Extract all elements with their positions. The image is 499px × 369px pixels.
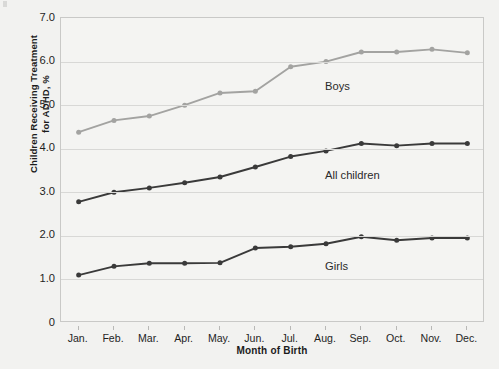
gridline xyxy=(61,105,483,106)
x-tick-mark xyxy=(148,326,149,330)
gridline xyxy=(61,192,483,193)
y-tick-label: 4.0 xyxy=(25,142,55,153)
gridline xyxy=(61,149,483,150)
x-tick-mark xyxy=(325,326,326,330)
data-point xyxy=(430,47,435,52)
x-axis-tick-labels: Jan.Feb.Mar.Apr.May.Jun.Jul.Aug.Sep.Oct.… xyxy=(60,326,484,344)
x-tick-mark xyxy=(219,326,220,330)
series-boys xyxy=(76,47,470,135)
y-tick-label: 5.0 xyxy=(25,99,55,110)
x-tick-mark xyxy=(396,326,397,330)
data-point xyxy=(253,89,258,94)
x-tick-label: Dec. xyxy=(439,332,493,344)
data-point xyxy=(324,241,329,246)
data-point xyxy=(76,130,81,135)
data-point xyxy=(218,175,223,180)
series-label-all-children: All children xyxy=(325,169,380,181)
x-tick-mark xyxy=(290,326,291,330)
data-point xyxy=(147,114,152,119)
data-point xyxy=(182,261,187,266)
y-tick-label: 7.0 xyxy=(25,12,55,23)
data-point xyxy=(465,141,470,146)
data-point xyxy=(112,264,117,269)
y-tick-label: 6.0 xyxy=(25,55,55,66)
gridline xyxy=(61,62,483,63)
y-axis-tick-labels: 01.02.03.04.05.06.07.0 xyxy=(22,0,55,369)
data-point xyxy=(288,154,293,159)
x-tick-mark xyxy=(254,326,255,330)
adhd-treatment-line-chart: Children Receiving Treatment for ADHD, %… xyxy=(0,0,499,369)
data-point xyxy=(288,64,293,69)
x-tick-mark xyxy=(184,326,185,330)
series-line xyxy=(79,237,468,275)
data-point xyxy=(218,90,223,95)
y-tick-label: 3.0 xyxy=(25,186,55,197)
gridline xyxy=(61,236,483,237)
data-point xyxy=(394,143,399,148)
data-point xyxy=(430,141,435,146)
plot-area xyxy=(60,17,484,322)
x-tick-mark xyxy=(113,326,114,330)
data-point xyxy=(182,180,187,185)
data-point xyxy=(253,246,258,251)
series-plot-svg xyxy=(61,18,485,323)
page-corner-mark xyxy=(3,1,7,7)
series-label-girls: Girls xyxy=(325,260,348,272)
series-girls xyxy=(76,234,470,277)
data-point xyxy=(394,49,399,54)
x-tick-mark xyxy=(431,326,432,330)
data-point xyxy=(147,261,152,266)
data-point xyxy=(394,238,399,243)
data-point xyxy=(76,199,81,204)
data-point xyxy=(76,273,81,278)
y-tick-label: 2.0 xyxy=(25,229,55,240)
y-tick-label: 1.0 xyxy=(25,273,55,284)
gridline xyxy=(61,279,483,280)
series-all-children xyxy=(76,141,470,204)
data-point xyxy=(112,118,117,123)
y-tick-label: 0 xyxy=(25,317,55,328)
data-point xyxy=(253,165,258,170)
data-point xyxy=(465,50,470,55)
data-point xyxy=(218,260,223,265)
x-tick-mark xyxy=(78,326,79,330)
x-tick-mark xyxy=(360,326,361,330)
data-point xyxy=(359,141,364,146)
data-point xyxy=(147,185,152,190)
data-point xyxy=(359,49,364,54)
series-label-boys: Boys xyxy=(325,80,350,92)
data-point xyxy=(288,244,293,249)
x-axis-title: Month of Birth xyxy=(60,345,484,356)
x-tick-mark xyxy=(466,326,467,330)
